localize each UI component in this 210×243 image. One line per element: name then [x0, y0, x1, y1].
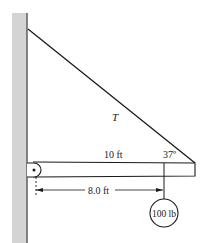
wall-body	[12, 13, 27, 243]
label-angle: 37º	[163, 149, 176, 160]
arrowhead-left-icon	[36, 188, 43, 192]
label-beam-length: 10 ft	[104, 149, 123, 160]
beam-cable-diagram: T 10 ft 37º 8.0 ft 100 lb	[0, 0, 210, 243]
cable-line	[28, 29, 195, 163]
label-load-distance: 8.0 ft	[88, 185, 109, 196]
label-tension: T	[112, 111, 119, 123]
wall	[12, 13, 27, 243]
beam	[33, 162, 195, 177]
pin-icon	[33, 169, 36, 172]
pin-support	[27, 163, 41, 177]
label-load: 100 lb	[152, 209, 176, 219]
beam-outline	[33, 162, 195, 177]
arrowhead-right-icon	[156, 188, 163, 192]
